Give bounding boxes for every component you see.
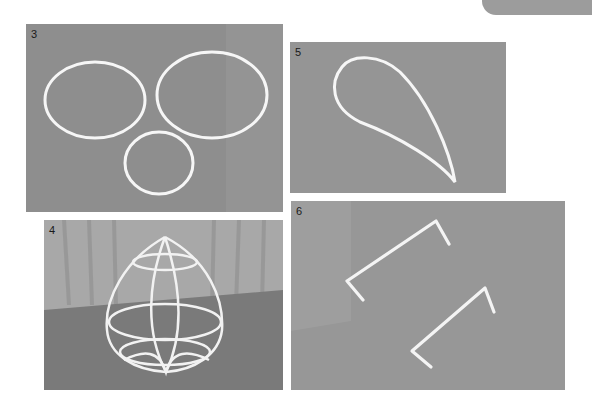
photo-panel-5: 5	[290, 42, 506, 193]
photo-panel-6: 6	[291, 201, 565, 390]
teardrop-photo	[290, 42, 506, 193]
photo-panel-3: 3	[26, 24, 283, 212]
photo-panel-4: 4	[44, 220, 283, 390]
rings-photo	[26, 24, 283, 212]
panel-number: 6	[296, 205, 302, 217]
corner-tab	[482, 0, 592, 15]
panel-number: 3	[31, 28, 37, 40]
dome-frame-photo	[44, 220, 283, 390]
panel-number: 5	[295, 46, 301, 58]
staples-photo	[291, 201, 565, 390]
panel-number: 4	[49, 224, 55, 236]
